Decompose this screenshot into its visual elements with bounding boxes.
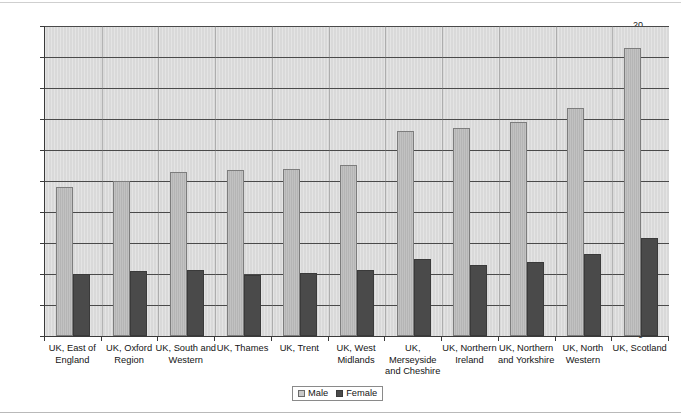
bar-male: [56, 187, 73, 336]
category-separator: [612, 26, 613, 336]
bar-male: [340, 165, 357, 336]
category-separator: [158, 26, 159, 336]
x-axis-category-label: UK, Scotland: [607, 343, 672, 355]
x-axis-tick-mark: [328, 337, 329, 341]
x-axis-category-label: UK, East of England: [40, 343, 105, 366]
x-axis-category-label: UK, West Midlands: [324, 343, 389, 366]
category-separator: [499, 26, 500, 336]
bar-female: [244, 275, 261, 336]
bar-male: [510, 122, 527, 336]
category-separator: [329, 26, 330, 336]
x-axis-category-label: UK, Trent: [267, 343, 332, 355]
category-separator: [385, 26, 386, 336]
x-axis-tick-mark: [271, 337, 272, 341]
x-axis-tick-mark: [384, 337, 385, 341]
bar-female: [584, 254, 601, 336]
x-axis-category-label: UK, South and Western: [153, 343, 218, 366]
bar-chart: 02468101214161820 UK, East of EnglandUK,…: [0, 0, 681, 417]
bar-female: [300, 273, 317, 336]
bar-female: [641, 238, 658, 336]
bar-male: [453, 128, 470, 336]
x-axis-category-label: UK, Northern Ireland: [437, 343, 502, 366]
legend-entry-female: Female: [336, 389, 377, 398]
x-axis-tick-mark: [668, 337, 669, 341]
bar-female: [470, 265, 487, 336]
bar-female: [527, 262, 544, 336]
x-axis-tick-mark: [214, 337, 215, 341]
category-separator: [272, 26, 273, 336]
x-axis-tick-mark: [555, 337, 556, 341]
x-axis-tick-mark: [441, 337, 442, 341]
bar-male: [113, 181, 130, 336]
x-axis-category-label: UK, Merseyside and Cheshire: [380, 343, 445, 378]
x-axis-tick-mark: [157, 337, 158, 341]
bar-male: [567, 108, 584, 336]
page-rule-bottom: [0, 412, 681, 413]
x-axis-category-label: UK, Northern and Yorkshire: [494, 343, 559, 366]
bar-male: [227, 170, 244, 336]
bar-female: [187, 270, 204, 336]
legend-entry-male: Male: [298, 389, 328, 398]
x-axis-tick-mark: [498, 337, 499, 341]
bar-female: [73, 274, 90, 336]
gridline: [45, 26, 669, 27]
category-separator: [442, 26, 443, 336]
bar-male: [170, 172, 187, 336]
x-axis-tick-mark: [611, 337, 612, 341]
legend-swatch-female-icon: [336, 390, 343, 397]
legend-swatch-male-icon: [298, 390, 305, 397]
x-axis-category-label: UK, Thames: [210, 343, 275, 355]
bar-male: [283, 169, 300, 336]
bar-female: [414, 259, 431, 336]
bar-female: [357, 270, 374, 336]
x-axis-category-label: UK, Oxford Region: [97, 343, 162, 366]
legend-label-male: Male: [308, 389, 328, 398]
bar-male: [397, 131, 414, 336]
x-axis-tick-mark: [101, 337, 102, 341]
plot-area: [44, 26, 669, 337]
page-rule-top: [0, 2, 681, 3]
x-axis-tick-mark: [44, 337, 45, 341]
category-separator: [215, 26, 216, 336]
category-separator: [102, 26, 103, 336]
gridline: [45, 88, 669, 89]
gridline: [45, 57, 669, 58]
legend-label-female: Female: [346, 389, 377, 398]
category-separator: [556, 26, 557, 336]
bar-female: [130, 271, 147, 336]
x-axis-category-label: UK, North Western: [551, 343, 616, 366]
chart-legend: Male Female: [292, 386, 383, 401]
bar-male: [624, 48, 641, 336]
